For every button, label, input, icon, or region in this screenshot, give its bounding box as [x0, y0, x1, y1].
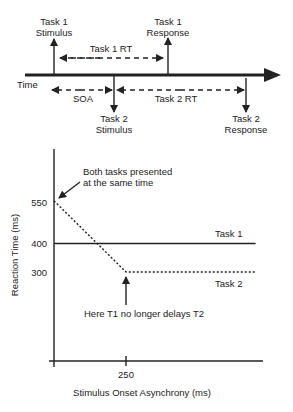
y-tick-label-400: 400	[31, 238, 47, 249]
task2-series-label: Task 2	[215, 278, 242, 289]
task2-stimulus-label-line1: Task 2	[100, 113, 127, 124]
soa-label: SOA	[73, 93, 94, 104]
rt-soa-plot: Reaction Time (ms) Stimulus Onset Asynch…	[9, 149, 263, 398]
time-label: Time	[17, 79, 38, 90]
y-tick-label-300: 300	[31, 267, 47, 278]
x-axis-label: Stimulus Onset Asynchrony (ms)	[73, 387, 211, 398]
annotation-simultaneous-line2: at the same time	[83, 177, 153, 188]
task1-stimulus-label-line2: Stimulus	[36, 27, 73, 38]
x-tick-label-250: 250	[118, 369, 134, 380]
psychological-refractory-period-figure: Time Task 1 Stimulus Task 1 Response Tas…	[0, 0, 293, 412]
y-tick-label-550: 550	[31, 197, 47, 208]
time-axis-arrowhead-icon	[264, 68, 281, 82]
annotation-simultaneous-arrow-icon	[59, 182, 80, 198]
task2-response-label-line1: Task 2	[232, 113, 259, 124]
task1-series-label: Task 1	[215, 228, 242, 239]
task2-stimulus-label-line2: Stimulus	[96, 124, 133, 135]
task2-response-label-line2: Response	[225, 124, 268, 135]
task1-rt-label: Task 1 RT	[90, 43, 133, 54]
task1-response-label-line2: Response	[147, 27, 190, 38]
task1-stimulus-label-line1: Task 1	[40, 16, 67, 27]
task1-response-label-line1: Task 1	[154, 16, 181, 27]
timeline-diagram: Time Task 1 Stimulus Task 1 Response Tas…	[17, 16, 281, 135]
task2-rt-label: Task 2 RT	[155, 93, 198, 104]
annotation-no-delay-text: Here T1 no longer delays T2	[84, 308, 204, 319]
annotation-simultaneous-line1: Both tasks presented	[83, 166, 172, 177]
y-axis-label: Reaction Time (ms)	[9, 214, 20, 296]
